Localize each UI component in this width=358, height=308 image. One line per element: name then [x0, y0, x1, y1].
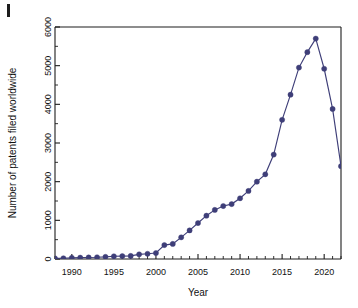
- y-tick-label: 1000: [43, 210, 53, 230]
- data-point: [271, 152, 276, 157]
- data-point: [229, 201, 234, 206]
- data-point: [187, 228, 192, 233]
- x-tick-label: 1990: [62, 267, 82, 277]
- y-tick-label: 4000: [43, 94, 53, 114]
- data-point: [120, 254, 125, 259]
- data-point: [322, 66, 327, 71]
- y-tick-label: 3000: [43, 133, 53, 153]
- data-point: [170, 241, 175, 246]
- data-point: [111, 254, 116, 259]
- data-point: [162, 242, 167, 247]
- y-tick-label: 2000: [43, 172, 53, 192]
- x-tick-label: 2010: [230, 267, 250, 277]
- data-point: [195, 220, 200, 225]
- data-point: [103, 254, 108, 259]
- y-axis-tick-labels: 0100020003000400050006000: [43, 17, 53, 262]
- data-point: [145, 251, 150, 256]
- data-point: [330, 106, 335, 111]
- data-point: [305, 50, 310, 55]
- x-tick-label: 2005: [188, 267, 208, 277]
- data-point: [246, 188, 251, 193]
- data-point: [137, 252, 142, 257]
- y-tick-label: 0: [43, 256, 53, 261]
- x-tick-label: 1995: [104, 267, 124, 277]
- y-axis-title: Number of patents filed worldwide: [7, 67, 18, 218]
- patent-filings-line-chart: 0100020003000400050006000 19901995200020…: [0, 0, 358, 308]
- x-axis-tick-labels: 1990199520002005201020152020: [62, 267, 334, 277]
- series-markers-patents: [52, 36, 343, 261]
- data-point: [280, 117, 285, 122]
- data-point: [254, 179, 259, 184]
- y-axis-ticks: [55, 27, 60, 259]
- data-point: [61, 256, 66, 261]
- y-tick-label: 6000: [43, 17, 53, 37]
- data-point: [153, 250, 158, 255]
- figure-root: 0100020003000400050006000 19901995200020…: [0, 0, 358, 308]
- data-point: [69, 255, 74, 260]
- x-tick-label: 2020: [314, 267, 334, 277]
- data-point: [263, 172, 268, 177]
- data-point: [313, 36, 318, 41]
- data-point: [221, 203, 226, 208]
- data-point: [237, 196, 242, 201]
- data-point: [288, 92, 293, 97]
- data-point: [128, 253, 133, 258]
- data-point: [296, 65, 301, 70]
- x-tick-label: 2015: [272, 267, 292, 277]
- data-point: [204, 213, 209, 218]
- data-point: [212, 207, 217, 212]
- x-tick-label: 2000: [146, 267, 166, 277]
- y-tick-label: 5000: [43, 56, 53, 76]
- data-point: [338, 164, 343, 169]
- series-group: [52, 36, 343, 261]
- x-axis-title: Year: [188, 287, 209, 298]
- data-point: [179, 235, 184, 240]
